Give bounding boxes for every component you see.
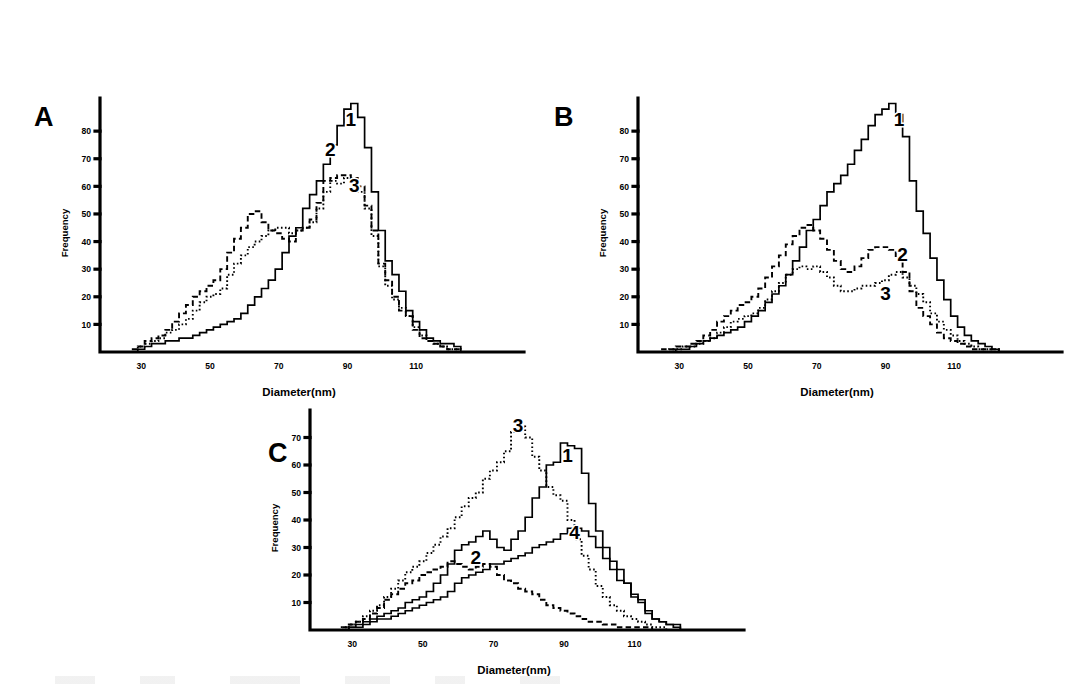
y-tick-label: 30 bbox=[291, 543, 301, 553]
x-tick-label: 110 bbox=[628, 639, 642, 649]
curve-label-1: 1 bbox=[894, 109, 905, 130]
y-tick-label: 70 bbox=[619, 154, 629, 164]
y-tick-label: 20 bbox=[81, 292, 91, 302]
panel-a: A 102030405060708030507090110Diameter(nm… bbox=[18, 18, 530, 400]
y-tick-label: 70 bbox=[291, 433, 301, 443]
curve-label-4: 4 bbox=[569, 522, 580, 543]
x-tick-label: 50 bbox=[743, 361, 753, 371]
series-curve-3 bbox=[328, 427, 688, 631]
curve-label-2: 2 bbox=[470, 547, 481, 568]
figure-root: A 102030405060708030507090110Diameter(nm… bbox=[0, 0, 1066, 685]
y-tick-label: 10 bbox=[81, 320, 91, 330]
series-curve-1 bbox=[117, 104, 468, 352]
y-tick-label: 60 bbox=[81, 182, 91, 192]
x-tick-label: 110 bbox=[947, 361, 961, 371]
y-tick-label: 60 bbox=[619, 182, 629, 192]
curve-label-1: 1 bbox=[346, 109, 357, 130]
x-tick-label: 90 bbox=[881, 361, 891, 371]
y-tick-label: 70 bbox=[81, 154, 91, 164]
x-tick-label: 70 bbox=[489, 639, 499, 649]
axis-lines bbox=[638, 98, 1062, 352]
y-tick-label: 80 bbox=[81, 126, 91, 136]
panel-a-plot: 102030405060708030507090110Diameter(nm)F… bbox=[18, 18, 530, 400]
y-axis-title: Frequency bbox=[269, 503, 280, 552]
x-tick-label: 70 bbox=[812, 361, 822, 371]
axis-lines bbox=[310, 410, 744, 630]
y-tick-label: 10 bbox=[291, 598, 301, 608]
series-curve-4 bbox=[328, 528, 688, 630]
y-tick-label: 30 bbox=[619, 264, 629, 274]
y-tick-label: 80 bbox=[619, 126, 629, 136]
series-curve-3 bbox=[655, 266, 1006, 352]
curve-label-3: 3 bbox=[349, 175, 360, 196]
series-curve-1 bbox=[655, 104, 1006, 352]
axis-lines bbox=[100, 98, 524, 352]
y-tick-label: 20 bbox=[619, 292, 629, 302]
y-tick-label: 40 bbox=[81, 237, 91, 247]
y-tick-label: 30 bbox=[81, 264, 91, 274]
series-curve-1 bbox=[328, 443, 688, 630]
x-tick-label: 50 bbox=[418, 639, 428, 649]
curve-label-3: 3 bbox=[513, 415, 524, 436]
panel-c-plot: 1020304050607030507090110Diameter(nm)Fre… bbox=[248, 396, 780, 681]
y-tick-label: 40 bbox=[291, 515, 301, 525]
y-tick-label: 50 bbox=[81, 209, 91, 219]
y-tick-label: 50 bbox=[619, 209, 629, 219]
y-tick-label: 50 bbox=[291, 488, 301, 498]
x-tick-label: 110 bbox=[409, 361, 423, 371]
panel-b-plot: 102030405060708030507090110Diameter(nm)F… bbox=[550, 18, 1062, 400]
x-tick-label: 50 bbox=[205, 361, 215, 371]
y-tick-label: 10 bbox=[619, 320, 629, 330]
y-tick-label: 60 bbox=[291, 460, 301, 470]
panel-b: B 102030405060708030507090110Diameter(nm… bbox=[550, 18, 1062, 400]
series-curve-2 bbox=[655, 225, 1006, 352]
series-curve-2 bbox=[117, 175, 468, 352]
scan-artifact-text bbox=[0, 676, 1066, 684]
curve-label-2: 2 bbox=[897, 244, 908, 265]
x-tick-label: 30 bbox=[348, 639, 358, 649]
x-axis-title: Diameter(nm) bbox=[477, 664, 551, 676]
curve-label-2: 2 bbox=[325, 139, 336, 160]
panel-c: C 1020304050607030507090110Diameter(nm)F… bbox=[248, 396, 780, 681]
y-tick-label: 40 bbox=[619, 237, 629, 247]
y-axis-title: Frequency bbox=[59, 208, 70, 257]
curve-label-1: 1 bbox=[562, 445, 573, 466]
y-axis-title: Frequency bbox=[597, 208, 608, 257]
x-axis-title: Diameter(nm) bbox=[800, 386, 874, 398]
x-tick-label: 30 bbox=[136, 361, 146, 371]
series-curve-3 bbox=[117, 178, 468, 352]
y-tick-label: 20 bbox=[291, 570, 301, 580]
x-tick-label: 90 bbox=[559, 639, 569, 649]
x-tick-label: 30 bbox=[674, 361, 684, 371]
x-tick-label: 70 bbox=[274, 361, 284, 371]
curve-label-3: 3 bbox=[880, 283, 891, 304]
x-tick-label: 90 bbox=[343, 361, 353, 371]
